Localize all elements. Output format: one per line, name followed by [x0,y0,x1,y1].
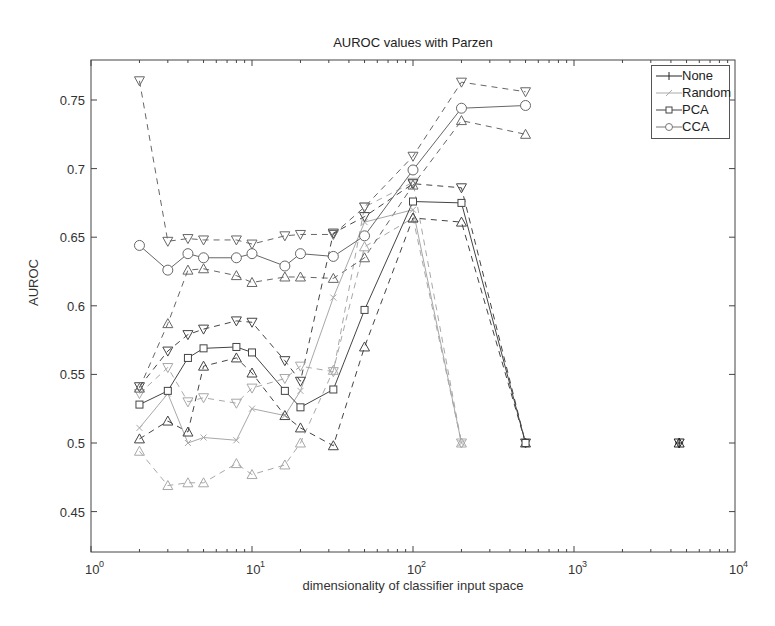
legend-label: CCA [682,119,709,134]
chart-title: AUROC values with Parzen [91,35,735,50]
legend-item-random: Random [652,85,729,102]
circle-marker-icon [521,100,531,110]
y-tick-label: 0.65 [60,230,85,245]
x-tick-exponent: 0 [99,559,104,569]
upper-band-line [139,81,525,244]
circle-marker-icon [134,240,144,250]
square-marker-icon [184,354,191,361]
y-axis-label: AUROC [26,259,41,306]
circle-marker-icon [231,253,241,263]
x-tick-label: 10 [407,562,421,577]
triangle-down-marker-icon [231,399,241,408]
plus-marker-icon [656,70,682,82]
circle-marker-icon [183,249,193,259]
circle-marker-icon [456,103,466,113]
y-tick-label: 0.75 [60,93,85,108]
circle-marker-icon [656,121,682,133]
series-line-cca [139,105,525,270]
triangle-down-marker-icon [163,237,173,246]
square-marker-icon [136,401,143,408]
triangle-up-marker-icon [360,242,370,251]
circle-marker-icon [247,249,257,259]
x-marker-icon [185,440,191,446]
circle-marker-icon [199,253,209,263]
x-marker-icon [656,87,682,99]
y-tick-label: 0.55 [60,367,85,382]
circle-marker-icon [163,265,173,275]
triangle-up-marker-icon [134,446,144,455]
legend-label: None [682,68,713,83]
legend-label: PCA [682,102,709,117]
legend-item-cca: CCA [652,119,729,136]
x-tick-label: 10 [246,562,260,577]
x-marker-icon [136,425,142,431]
x-tick-label: 10 [568,562,582,577]
legend: None Random PCA CCA [651,65,730,139]
triangle-down-marker-icon [247,318,257,327]
circle-marker-icon [360,231,370,241]
circle-marker-icon [295,249,305,259]
x-tick-exponent: 3 [582,559,587,569]
circle-marker-icon [328,251,338,261]
upper-band-line [139,184,525,443]
x-tick-label: 10 [729,562,743,577]
triangle-up-marker-icon [247,277,257,286]
square-marker-icon [164,387,171,394]
legend-item-pca: PCA [652,102,729,119]
triangle-up-marker-icon [280,460,290,469]
plus-marker-icon [675,439,683,447]
circle-marker-icon [280,261,290,271]
triangle-down-marker-icon [199,325,209,334]
x-tick-exponent: 1 [260,559,265,569]
y-tick-label: 0.7 [67,162,85,177]
x-marker-icon [330,295,336,301]
y-tick-label: 0.45 [60,505,85,520]
square-marker-icon [281,387,288,394]
legend-item-none: None [652,68,729,85]
square-marker-icon [522,440,529,447]
square-marker-icon [361,306,368,313]
square-marker-icon [410,198,417,205]
square-marker-icon [297,404,304,411]
square-marker-icon [656,104,682,116]
triangle-up-marker-icon [280,272,290,281]
circle-marker-icon [408,165,418,175]
y-tick-label: 0.6 [67,299,85,314]
square-marker-icon [233,343,240,350]
x-marker-icon [297,388,303,394]
y-tick-label: 0.5 [67,436,85,451]
triangle-up-marker-icon [456,116,466,125]
x-tick-label: 10 [85,562,99,577]
square-marker-icon [249,349,256,356]
square-marker-icon [458,199,465,206]
triangle-up-marker-icon [183,265,193,274]
square-marker-icon [200,345,207,352]
x-tick-exponent: 2 [421,559,426,569]
triangle-up-marker-icon [360,342,370,351]
triangle-down-marker-icon [521,88,531,97]
x-tick-exponent: 4 [743,559,748,569]
legend-label: Random [682,85,731,100]
square-marker-icon [330,386,337,393]
chart: 1001011021031040.450.50.550.60.650.70.75… [0,0,775,626]
x-axis-label: dimensionality of classifier input space [91,578,735,593]
